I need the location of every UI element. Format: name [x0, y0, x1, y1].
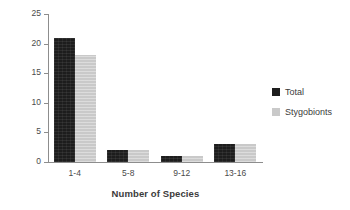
y-axis-tick-label: 15 [32, 67, 41, 77]
y-axis-tick-label: 10 [32, 97, 41, 107]
bar-total-5-8 [107, 150, 128, 162]
legend-swatch-stygobionts-icon [272, 108, 280, 116]
y-axis-tick-mark [44, 162, 48, 163]
legend-item-total: Total [272, 82, 332, 102]
bar-stygobionts-13-16 [235, 144, 256, 162]
x-axis-tick-label: 1-4 [48, 168, 102, 178]
y-axis-tick: 10 [0, 103, 48, 104]
y-axis-tick-label: 0 [36, 156, 41, 166]
bar-group [161, 14, 203, 162]
y-axis-tick-label: 5 [36, 126, 41, 136]
bar-stygobionts-1-4 [75, 55, 96, 162]
bar-total-13-16 [214, 144, 235, 162]
bar-group [107, 14, 149, 162]
bar-chart: Number of Drips 0510152025 1-45-89-1213-… [0, 0, 350, 210]
y-axis-tick-label: 20 [32, 38, 41, 48]
y-axis-tick: 15 [0, 73, 48, 74]
legend-label-total: Total [285, 87, 304, 97]
bar-stygobionts-5-8 [128, 150, 149, 162]
y-axis-tick: 0 [0, 162, 48, 163]
y-axis-tick: 20 [0, 44, 48, 45]
chart-legend: Total Stygobionts [272, 82, 332, 122]
x-axis-tick-label: 9-12 [155, 168, 209, 178]
legend-item-stygobionts: Stygobionts [272, 102, 332, 122]
x-axis-tick-label: 13-16 [209, 168, 263, 178]
bar-stygobionts-9-12 [182, 156, 203, 162]
bar-group [54, 14, 96, 162]
bar-total-9-12 [161, 156, 182, 162]
x-axis-tick-label: 5-8 [102, 168, 156, 178]
bar-total-1-4 [54, 38, 75, 162]
legend-label-stygobionts: Stygobionts [285, 107, 332, 117]
y-axis-tick: 25 [0, 14, 48, 15]
y-axis-tick: 5 [0, 132, 48, 133]
plot-area [48, 14, 262, 162]
bar-group [214, 14, 256, 162]
x-axis-line [48, 162, 263, 163]
x-axis-title: Number of Species [48, 188, 263, 199]
legend-swatch-total-icon [272, 88, 280, 96]
y-axis-tick-label: 25 [32, 8, 41, 18]
